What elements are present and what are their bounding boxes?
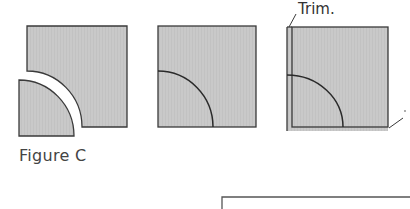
next-figure-edge (222, 197, 410, 209)
leader-dot (404, 110, 406, 112)
panel-separated-block (19, 26, 127, 136)
joined-square (158, 26, 256, 127)
trim-leader-bottom (389, 118, 403, 128)
quarter-circle-piece (19, 80, 74, 136)
trim-leader-top (289, 14, 296, 27)
panel-joined-block (158, 26, 256, 127)
panel-trimmed-block (287, 14, 406, 131)
figure-caption: Figure C (19, 146, 87, 165)
trim-label: Trim. (298, 0, 335, 18)
figure-c-diagram (0, 0, 410, 209)
